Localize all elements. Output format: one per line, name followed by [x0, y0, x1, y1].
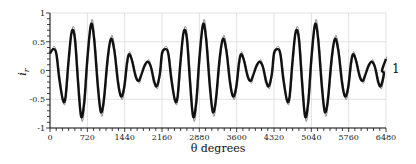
x-tick-label: 6480	[376, 133, 396, 142]
y-tick-label: -0.5	[30, 95, 45, 104]
y-tick-label: 1	[40, 9, 45, 18]
x-tick-label: 5760	[338, 133, 358, 142]
x-tick-label: 1440	[114, 133, 134, 142]
x-tick-label: 0	[47, 133, 52, 142]
y-tick-label: 0	[40, 67, 45, 76]
x-tick-label: 5040	[301, 133, 321, 142]
y-tick-label: 0.5	[32, 38, 45, 47]
y-tick-label: -1	[37, 124, 45, 133]
x-tick-label: 2160	[152, 133, 172, 142]
x-tick-label: 2880	[189, 133, 209, 142]
chart: 072014402160288036004320504057606480-1-0…	[0, 0, 416, 164]
y-axis-label: ir	[16, 67, 31, 76]
series-label: 1	[392, 62, 400, 76]
x-tick-label: 4320	[264, 133, 284, 142]
x-tick-label: 720	[80, 133, 95, 142]
x-tick-label: 3600	[226, 133, 246, 142]
x-axis-label: θ degrees	[191, 142, 246, 155]
